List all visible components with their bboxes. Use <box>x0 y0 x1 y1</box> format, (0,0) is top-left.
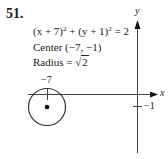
x-axis-arrow-icon <box>150 92 158 98</box>
x-axis-label: x <box>160 87 164 98</box>
x-tick-label: −7 <box>41 74 52 85</box>
y-axis-arrow-icon <box>135 20 141 29</box>
y-tick-label: −1 <box>144 100 155 111</box>
circle-center-point <box>45 105 50 110</box>
coordinate-graph <box>0 0 168 159</box>
y-axis-label: y <box>135 5 139 16</box>
